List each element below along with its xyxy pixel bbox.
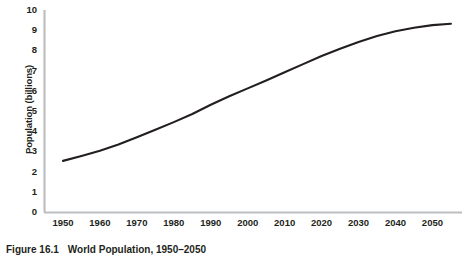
y-tick-7: 7 — [21, 66, 37, 76]
x-tick-2000: 2000 — [228, 217, 268, 228]
figure-container: Population (billions) 012345678910 19501… — [0, 0, 469, 263]
x-tick-1960: 1960 — [80, 217, 120, 228]
chart-plot-area: Population (billions) 012345678910 19501… — [0, 0, 469, 236]
figure-caption-label: Figure 16.1 — [6, 244, 59, 255]
x-tick-2040: 2040 — [375, 217, 415, 228]
y-tick-6: 6 — [21, 86, 37, 96]
y-tick-3: 3 — [21, 146, 37, 156]
y-tick-9: 9 — [21, 25, 37, 35]
x-tick-2050: 2050 — [412, 217, 452, 228]
y-tick-4: 4 — [21, 126, 37, 136]
x-tick-2010: 2010 — [265, 217, 305, 228]
y-tick-10: 10 — [21, 5, 37, 15]
y-tick-2: 2 — [21, 167, 37, 177]
y-tick-5: 5 — [21, 106, 37, 116]
population-line-chart — [0, 0, 469, 236]
figure-caption-title: World Population, 1950–2050 — [68, 244, 206, 255]
x-tick-2020: 2020 — [302, 217, 342, 228]
figure-caption: Figure 16.1World Population, 1950–2050 — [6, 244, 206, 255]
y-tick-0: 0 — [21, 207, 37, 217]
y-tick-8: 8 — [21, 45, 37, 55]
x-tick-2030: 2030 — [339, 217, 379, 228]
population-trend-line — [63, 24, 451, 161]
y-tick-1: 1 — [21, 187, 37, 197]
x-tick-1950: 1950 — [43, 217, 83, 228]
x-tick-1980: 1980 — [154, 217, 194, 228]
x-tick-1970: 1970 — [117, 217, 157, 228]
x-tick-1990: 1990 — [191, 217, 231, 228]
